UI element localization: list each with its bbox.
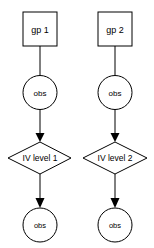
arrowhead-iv2 [111, 133, 120, 142]
node-iv1[interactable]: IV level 1 [8, 142, 71, 174]
column-group-2: gp 2 obs IV level 2 obs [83, 12, 147, 242]
node-obs1b[interactable]: obs [23, 208, 57, 242]
node-label: obs [109, 221, 121, 230]
node-label: obs [34, 89, 47, 98]
node-label: obs [34, 221, 46, 230]
node-label: gp 2 [106, 25, 124, 35]
column-group-1: gp 1 obs IV level 1 obs [8, 12, 71, 242]
arrowhead-iv1 [36, 133, 45, 142]
arrowhead-obs2b [111, 198, 120, 208]
node-obs2a[interactable]: obs [98, 76, 132, 110]
node-obs2b[interactable]: obs [98, 208, 132, 242]
node-gp2[interactable]: gp 2 [98, 12, 132, 46]
node-label: obs [109, 89, 122, 98]
flowchart-diagram: gp 1 obs IV level 1 obs gp 2 obs [0, 0, 154, 248]
node-iv2[interactable]: IV level 2 [83, 142, 147, 174]
node-gp1[interactable]: gp 1 [23, 12, 57, 46]
arrowhead-obs1b [36, 198, 45, 208]
node-label: IV level 1 [23, 153, 58, 163]
node-label: IV level 2 [98, 153, 133, 163]
node-label: gp 1 [31, 25, 49, 35]
node-obs1a[interactable]: obs [23, 76, 57, 110]
